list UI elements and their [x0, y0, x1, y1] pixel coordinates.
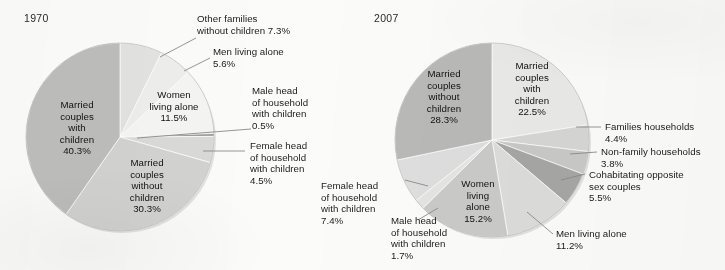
- callout-male-head-of-household-1970: Male head of household with children 0.5…: [252, 85, 308, 131]
- slice-label-married-without-children-2007: Married couples without children 28.3%: [404, 68, 484, 126]
- callout-other-families-without-children-1970: Other families without children 7.3%: [197, 13, 290, 36]
- callout-female-head-of-household-2007: Female head of household with children 7…: [321, 180, 378, 226]
- slice-label-married-with-children-2007: Married couples with children 22.5%: [494, 60, 570, 118]
- callout-men-living-alone-2007: Men living alone 11.2%: [556, 228, 627, 251]
- callout-male-head-of-household-2007: Male head of household with children 1.7…: [391, 215, 447, 261]
- callout-men-living-alone-1970: Men living alone 5.6%: [213, 46, 284, 69]
- callout-non-family-households-2007: Non-family households 3.8%: [601, 146, 701, 169]
- callout-cohabitating-opposite-sex-couples-2007: Cohabitating opposite sex couples 5.5%: [589, 169, 684, 204]
- callout-female-head-of-household-1970: Female head of household with children 4…: [250, 140, 307, 186]
- slice-label-women-living-alone-1970: Women living alone 11.5%: [137, 89, 211, 124]
- callout-families-households-2007: Families households 4.4%: [605, 121, 694, 144]
- slice-label-women-living-alone-2007: Women living alone 15.2%: [444, 178, 512, 224]
- slice-label-married-with-children-1970: Married couples with children 40.3%: [36, 99, 118, 157]
- slice-label-married-without-children-1970: Married couples without children 30.3%: [106, 157, 188, 215]
- two-pie-chart-figure: 1970 2007 Married couples with children …: [0, 0, 725, 270]
